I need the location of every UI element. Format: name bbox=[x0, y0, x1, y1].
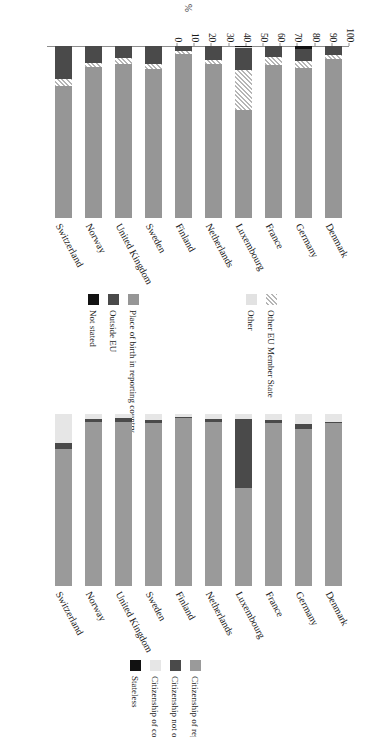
legend-swatch-icon bbox=[170, 660, 181, 671]
bar-segment[interactable] bbox=[146, 423, 163, 586]
category-label: Finland bbox=[174, 589, 198, 621]
category-label: Switzerland bbox=[54, 221, 86, 268]
bar-segment[interactable] bbox=[296, 414, 313, 424]
bar-segment[interactable] bbox=[116, 422, 133, 586]
bar-segment[interactable] bbox=[56, 449, 73, 586]
bar-row[interactable] bbox=[326, 414, 343, 586]
bar-row[interactable] bbox=[266, 46, 283, 218]
category-label: Netherlands bbox=[204, 221, 236, 269]
bar-row[interactable] bbox=[176, 414, 193, 586]
axis-tick-label: 30 bbox=[224, 33, 234, 42]
bar-segment[interactable] bbox=[206, 414, 223, 419]
bar-segment[interactable] bbox=[296, 429, 313, 586]
bar-row[interactable] bbox=[86, 414, 103, 586]
axis-tick-label: 80 bbox=[310, 33, 320, 42]
bar-segment[interactable] bbox=[266, 57, 283, 65]
bar-segment[interactable] bbox=[56, 79, 73, 86]
bar-segment[interactable] bbox=[176, 51, 193, 54]
bar-row[interactable] bbox=[206, 46, 223, 218]
axis-tick-label: 10 bbox=[189, 33, 199, 42]
bar-row[interactable] bbox=[236, 46, 253, 218]
bar-segment[interactable] bbox=[146, 46, 163, 64]
bar-segment[interactable] bbox=[116, 46, 133, 58]
bar-segment[interactable] bbox=[236, 110, 253, 218]
category-label: Luxembourg bbox=[234, 221, 268, 272]
bar-segment[interactable] bbox=[86, 422, 103, 586]
bar-segment[interactable] bbox=[266, 420, 283, 423]
bar-segment[interactable] bbox=[296, 424, 313, 429]
bar-segment[interactable] bbox=[86, 63, 103, 66]
bar-segment[interactable] bbox=[236, 488, 253, 586]
bar-segment[interactable] bbox=[236, 70, 253, 110]
bar-segment[interactable] bbox=[206, 60, 223, 64]
bar-segment[interactable] bbox=[326, 55, 343, 59]
axis-tick-label: 0 bbox=[172, 37, 182, 42]
legend-item: Citizenship of reporting country bbox=[190, 660, 201, 737]
bar-segment[interactable] bbox=[326, 46, 343, 55]
bar-segment[interactable] bbox=[326, 59, 343, 218]
bar-row[interactable] bbox=[266, 414, 283, 586]
bar-segment[interactable] bbox=[116, 418, 133, 421]
bar-segment[interactable] bbox=[86, 414, 103, 419]
bar-segment[interactable] bbox=[146, 64, 163, 69]
bar-segment[interactable] bbox=[56, 86, 73, 218]
bar-row[interactable] bbox=[56, 414, 73, 586]
bar-row[interactable] bbox=[146, 46, 163, 218]
bar-segment[interactable] bbox=[116, 64, 133, 218]
legend-label: Citizenship not of reporting country, bu… bbox=[169, 676, 180, 737]
bar-segment[interactable] bbox=[116, 58, 133, 64]
legend-label: Stateless bbox=[129, 676, 140, 708]
bar-segment[interactable] bbox=[206, 422, 223, 586]
axis-tick-label: 20 bbox=[207, 33, 217, 42]
bar-row[interactable] bbox=[56, 46, 73, 218]
bar-segment[interactable] bbox=[236, 419, 253, 488]
bar-segment[interactable] bbox=[56, 46, 73, 79]
bar-row[interactable] bbox=[296, 46, 313, 218]
bar-segment[interactable] bbox=[296, 46, 313, 49]
bar-segment[interactable] bbox=[176, 414, 193, 417]
bar-segment[interactable] bbox=[266, 423, 283, 586]
bar-row[interactable] bbox=[296, 414, 313, 586]
bar-segment[interactable] bbox=[206, 46, 223, 60]
bar-segment[interactable] bbox=[176, 46, 193, 51]
bar-segment[interactable] bbox=[86, 419, 103, 422]
bar-row[interactable] bbox=[326, 46, 343, 218]
bar-segment[interactable] bbox=[296, 68, 313, 218]
bar-row[interactable] bbox=[236, 414, 253, 586]
bar-segment[interactable] bbox=[86, 46, 103, 63]
bar-segment[interactable] bbox=[326, 423, 343, 586]
category-label: Netherlands bbox=[204, 589, 236, 637]
legend-label: Citizenship of reporting country bbox=[189, 676, 200, 737]
bar-row[interactable] bbox=[86, 46, 103, 218]
bar-segment[interactable] bbox=[266, 65, 283, 218]
axis-tick-label: 70 bbox=[293, 33, 303, 42]
bar-row[interactable] bbox=[116, 414, 133, 586]
bar-segment[interactable] bbox=[176, 417, 193, 418]
bar-segment[interactable] bbox=[176, 418, 193, 586]
bar-segment[interactable] bbox=[116, 414, 133, 418]
bar-row[interactable] bbox=[146, 414, 163, 586]
bar-segment[interactable] bbox=[146, 69, 163, 218]
bar-segment[interactable] bbox=[206, 64, 223, 218]
bar-segment[interactable] bbox=[86, 67, 103, 218]
bar-segment[interactable] bbox=[146, 414, 163, 420]
bar-segment[interactable] bbox=[236, 46, 253, 47]
bar-segment[interactable] bbox=[266, 46, 283, 57]
bar-row[interactable] bbox=[206, 414, 223, 586]
bar-segment[interactable] bbox=[236, 414, 253, 419]
bar-segment[interactable] bbox=[266, 414, 283, 420]
bar-segment[interactable] bbox=[56, 443, 73, 449]
bar-segment[interactable] bbox=[326, 422, 343, 424]
bar-segment[interactable] bbox=[206, 419, 223, 422]
bar-segment[interactable] bbox=[176, 54, 193, 218]
bar-segment[interactable] bbox=[236, 47, 253, 48]
category-label: Norway bbox=[84, 221, 109, 255]
bar-segment[interactable] bbox=[56, 414, 73, 443]
bar-segment[interactable] bbox=[146, 420, 163, 423]
bar-segment[interactable] bbox=[236, 48, 253, 70]
bar-row[interactable] bbox=[116, 46, 133, 218]
bar-segment[interactable] bbox=[296, 61, 313, 68]
bar-segment[interactable] bbox=[326, 414, 343, 422]
bar-segment[interactable] bbox=[296, 49, 313, 61]
bar-row[interactable] bbox=[176, 46, 193, 218]
